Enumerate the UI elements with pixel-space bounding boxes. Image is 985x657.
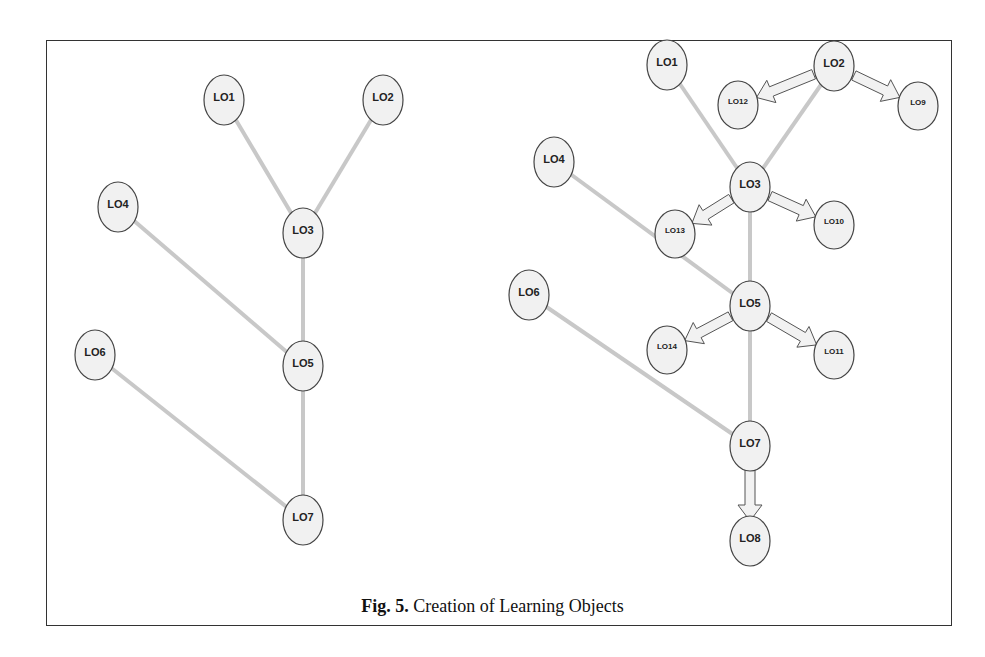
node-label: LO10 [824,217,845,226]
node-label: LO6 [84,346,105,358]
figure-number: Fig. 5. [361,596,409,616]
node-right-lo3[interactable]: LO3 [730,162,770,212]
arrow-right-lo5-lo14 [685,312,733,344]
node-label: LO2 [823,57,844,69]
node-left-lo1[interactable]: LO1 [204,75,244,125]
arrow-right-lo2-lo9 [852,71,900,102]
node-right-lo14[interactable]: LO14 [647,326,687,374]
node-label: LO5 [739,297,760,309]
node-label: LO9 [910,98,926,107]
arrow-right-lo2-lo12 [757,70,816,103]
node-label: LO4 [107,198,129,210]
node-label: LO7 [739,437,760,449]
node-left-lo4[interactable]: LO4 [98,182,138,232]
node-label: LO12 [728,97,749,106]
node-left-lo5[interactable]: LO5 [283,341,323,391]
node-right-lo4[interactable]: LO4 [534,137,574,187]
node-right-lo2[interactable]: LO2 [814,41,854,91]
node-label: LO8 [739,532,760,544]
node-right-lo13[interactable]: LO13 [655,210,695,258]
node-right-lo7[interactable]: LO7 [730,421,770,471]
node-label: LO3 [292,224,313,236]
edge-left-lo4-lo5 [118,207,303,366]
node-right-lo9[interactable]: LO9 [898,82,938,130]
node-right-lo10[interactable]: LO10 [814,201,854,249]
node-label: LO3 [739,178,760,190]
edge-right-lo4-lo5 [554,162,750,306]
node-left-lo6[interactable]: LO6 [75,330,115,380]
node-label: LO2 [372,91,393,103]
node-label: LO11 [824,347,844,356]
node-left-lo2[interactable]: LO2 [363,75,403,125]
node-right-lo12[interactable]: LO12 [718,81,758,129]
node-right-lo1[interactable]: LO1 [647,40,687,90]
node-right-lo6[interactable]: LO6 [509,270,549,320]
node-label: LO5 [292,357,313,369]
node-label: LO7 [292,511,313,523]
node-label: LO6 [518,286,539,298]
figure-caption: Fig. 5. Creation of Learning Objects [0,596,985,617]
figure-title: Creation of Learning Objects [413,596,623,616]
node-label: LO14 [657,342,678,351]
arrow-right-lo3-lo13 [692,194,734,225]
arrow-right-lo7-lo8 [738,468,762,521]
node-right-lo5[interactable]: LO5 [730,281,770,331]
node-left-lo3[interactable]: LO3 [283,208,323,258]
node-right-lo8[interactable]: LO8 [730,516,770,566]
node-label: LO1 [213,91,234,103]
node-right-lo11[interactable]: LO11 [814,331,854,379]
nodes-layer: LO1LO2LO3LO4LO5LO6LO7LO1LO2LO12LO9LO4LO3… [75,40,938,566]
edge-left-lo6-lo7 [95,355,303,520]
learning-objects-diagram: LO1LO2LO3LO4LO5LO6LO7LO1LO2LO12LO9LO4LO3… [0,0,985,657]
arrow-right-lo5-lo11 [767,313,817,347]
edges-layer [95,65,900,521]
arrow-right-lo3-lo10 [768,192,816,222]
node-label: LO1 [656,56,677,68]
node-label: LO13 [665,226,686,235]
node-left-lo7[interactable]: LO7 [283,495,323,545]
node-label: LO4 [543,153,565,165]
